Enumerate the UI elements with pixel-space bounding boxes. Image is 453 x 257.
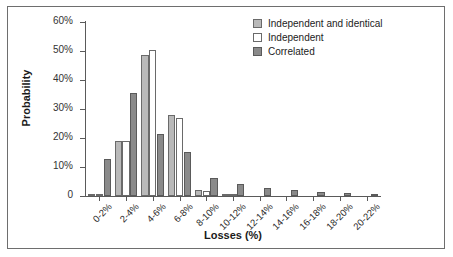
legend-item: Correlated [253, 45, 383, 58]
x-axis-title: Losses (%) [204, 229, 262, 241]
x-axis-tick-mark [99, 197, 100, 201]
y-axis-tick: 60% [80, 22, 85, 23]
bar-group [88, 22, 111, 196]
y-axis-tick-label: 30% [53, 102, 73, 113]
y-axis-tick-label: 60% [53, 15, 73, 26]
bar [317, 192, 324, 196]
bar [264, 188, 271, 196]
bar [203, 191, 210, 196]
legend-swatch-icon [253, 19, 262, 28]
x-axis-tick-mark [153, 197, 154, 201]
y-axis-tick: 40% [80, 80, 85, 81]
y-axis-tick-label: 40% [53, 73, 73, 84]
y-axis-tick: 50% [80, 51, 85, 52]
chart-figure: Probability 010%20%30%40%50%60% 0-2%2-4%… [0, 0, 453, 257]
y-axis-tick-mark [80, 196, 85, 197]
x-axis-tick-mark [313, 197, 314, 201]
y-axis-tick-label: 0 [67, 189, 73, 200]
y-axis-title: Probability [20, 70, 32, 127]
bar [130, 93, 137, 196]
legend-swatch-icon [253, 33, 262, 42]
bar [344, 193, 351, 196]
bar-group [141, 22, 164, 196]
bar [195, 190, 202, 196]
legend-item-label: Independent and identical [268, 18, 383, 29]
bar-group [115, 22, 138, 196]
y-axis-tick-mark [80, 138, 85, 139]
y-axis-tick-mark [80, 109, 85, 110]
chart-legend: Independent and identicalIndependentCorr… [253, 17, 383, 59]
bar [115, 141, 122, 196]
x-axis-tick-mark [180, 197, 181, 201]
bar [157, 134, 164, 196]
legend-swatch-icon [253, 47, 262, 56]
bar [291, 190, 298, 196]
y-axis-tick-mark [80, 51, 85, 52]
legend-item: Independent and identical [253, 17, 383, 30]
y-axis-tick-label: 50% [53, 44, 73, 55]
y-axis-tick-mark [80, 22, 85, 23]
legend-item-label: Independent [268, 32, 324, 43]
y-axis-tick-label: 10% [53, 160, 73, 171]
x-axis-tick-mark [340, 197, 341, 201]
bar [141, 55, 148, 196]
x-axis-tick-mark [367, 197, 368, 201]
legend-item: Independent [253, 31, 383, 44]
bar [229, 194, 236, 196]
x-axis-tick-mark [126, 197, 127, 201]
y-axis-tick: 20% [80, 138, 85, 139]
bar [122, 141, 129, 196]
bar [371, 194, 378, 196]
legend-item-label: Correlated [268, 46, 315, 57]
bar [149, 50, 156, 196]
x-axis-tick-mark [286, 197, 287, 201]
bar-group [222, 22, 245, 196]
y-axis-tick: 10% [80, 167, 85, 168]
y-axis-tick-mark [80, 80, 85, 81]
bar [88, 194, 95, 196]
y-axis-tick: 30% [80, 109, 85, 110]
bar [210, 178, 217, 196]
y-axis-tick-mark [80, 167, 85, 168]
bar [237, 184, 244, 196]
bar [96, 194, 103, 196]
x-axis-tick-mark [206, 197, 207, 201]
x-axis-tick-mark [260, 197, 261, 201]
x-axis-tick-mark [233, 197, 234, 201]
bar [184, 152, 191, 196]
bar [104, 159, 111, 196]
bar-group [195, 22, 218, 196]
bar [168, 115, 175, 196]
bar-group [168, 22, 191, 196]
y-axis-tick-label: 20% [53, 131, 73, 142]
bar [176, 118, 183, 196]
y-axis-tick: 0 [80, 196, 85, 197]
bar [222, 194, 229, 196]
